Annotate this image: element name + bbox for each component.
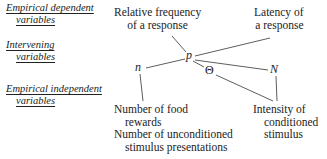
- node-latency: Latency of a response: [254, 6, 304, 31]
- node-line: a response: [254, 19, 304, 32]
- label-line: variables: [6, 51, 55, 63]
- line-p-latency: [195, 38, 270, 56]
- node-food-rewards: Number of food rewards: [114, 103, 188, 128]
- node-line: Relative frequency: [114, 6, 201, 19]
- label-line: Intervening: [6, 39, 55, 51]
- node-line: Number of unconditioned: [114, 128, 233, 141]
- node-line: conditioned: [253, 116, 318, 129]
- label-line: Empirical dependent: [6, 2, 94, 14]
- node-unconditioned: Number of unconditioned stimulus present…: [114, 128, 233, 153]
- symbol-p: p: [186, 48, 192, 63]
- label-line: variables: [6, 14, 94, 26]
- node-intensity: Intensity of conditioned stimulus: [253, 103, 318, 141]
- line-n-p: [146, 59, 185, 68]
- line-p-relative-frequency: [172, 36, 186, 52]
- symbol-n: n: [135, 60, 141, 75]
- symbol-N: N: [270, 62, 278, 77]
- node-line: stimulus presentations: [114, 141, 233, 154]
- label-intervening: Intervening variables: [6, 39, 55, 63]
- label-empirical-independent: Empirical independent variables: [6, 83, 102, 107]
- node-line: of a response: [114, 19, 201, 32]
- node-relative-frequency: Relative frequency of a response: [114, 6, 201, 31]
- node-line: Latency of: [254, 6, 304, 19]
- node-line: stimulus: [253, 128, 318, 141]
- line-N-intensity: [276, 76, 277, 101]
- line-theta-intensity: [216, 75, 273, 101]
- node-line: Intensity of: [253, 103, 318, 116]
- line-p-theta: [193, 61, 204, 67]
- line-n-food-rewards: [140, 74, 143, 101]
- label-line: Empirical independent: [6, 83, 102, 95]
- label-line: variables: [6, 95, 102, 107]
- node-line: Number of food: [114, 103, 188, 116]
- node-line: rewards: [114, 116, 188, 129]
- label-empirical-dependent: Empirical dependent variables: [6, 2, 94, 26]
- symbol-theta: Θ: [205, 63, 214, 78]
